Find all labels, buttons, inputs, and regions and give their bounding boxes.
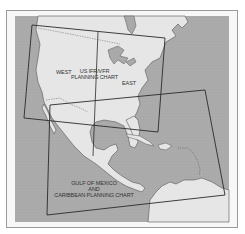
label-us-chart: US IFR/VFR PLANNING CHART (71, 68, 118, 80)
label-us-chart-line2: PLANNING CHART (71, 74, 118, 80)
label-east: EAST (122, 80, 136, 86)
label-gulf-line3: CARIBBEAN PLANNING CHART (52, 192, 136, 198)
label-gulf-chart: GULF OF MEXICO AND CARIBBEAN PLANNING CH… (52, 180, 136, 198)
planning-chart-coverage-map (0, 0, 245, 234)
label-west: WEST (56, 69, 72, 75)
